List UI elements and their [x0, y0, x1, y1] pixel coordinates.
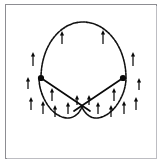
- field-arrow: [112, 88, 116, 101]
- field-arrow-head: [66, 102, 70, 106]
- boundary-curve-group: [39, 22, 126, 118]
- field-arrow-head: [41, 101, 45, 105]
- field-arrow: [60, 31, 64, 44]
- field-arrow-head: [112, 88, 116, 92]
- field-arrow-head: [101, 30, 105, 34]
- figure-root: [0, 0, 165, 168]
- field-arrow-head: [134, 97, 138, 101]
- field-arrow: [96, 102, 100, 114]
- field-arrow: [31, 52, 35, 66]
- field-arrow: [131, 52, 135, 66]
- field-arrow-head: [131, 52, 135, 56]
- field-arrow-head: [53, 105, 57, 109]
- figure-canvas: [0, 0, 165, 168]
- field-arrow-head: [109, 105, 113, 109]
- field-arrow-head: [31, 52, 35, 56]
- right-point: [120, 75, 126, 81]
- field-arrow-head: [60, 31, 64, 35]
- field-arrow-head: [122, 101, 126, 105]
- field-arrow: [122, 101, 126, 114]
- field-arrow: [41, 101, 45, 114]
- field-arrow-head: [26, 77, 30, 81]
- field-arrow-head: [137, 78, 141, 82]
- field-arrow: [66, 102, 70, 114]
- field-arrow: [26, 77, 30, 89]
- marked-points-group: [38, 75, 126, 81]
- left-point: [38, 75, 44, 81]
- field-arrow-head: [96, 102, 100, 106]
- boundary-curve: [39, 22, 126, 118]
- field-arrow: [137, 78, 141, 90]
- field-arrow-head: [29, 97, 33, 101]
- field-arrow-head: [50, 88, 54, 92]
- field-arrow: [134, 97, 138, 110]
- field-arrow: [50, 88, 54, 101]
- field-arrow: [101, 30, 105, 44]
- field-arrow-head: [75, 95, 79, 99]
- field-arrow-head: [87, 95, 91, 99]
- field-arrow: [29, 97, 33, 110]
